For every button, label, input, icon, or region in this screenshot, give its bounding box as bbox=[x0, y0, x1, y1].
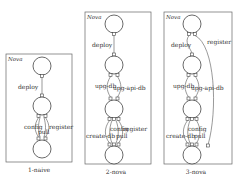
panel-title: Nova bbox=[165, 14, 181, 20]
port bbox=[195, 143, 198, 146]
port bbox=[44, 115, 47, 118]
panel-title: Nova bbox=[86, 14, 102, 20]
node-state bbox=[183, 15, 201, 33]
panel-3-nova: Nova deploy register upg-db upg-api-db c… bbox=[164, 12, 232, 175]
port bbox=[187, 74, 190, 77]
label-pull: pull bbox=[194, 132, 206, 140]
node-state bbox=[33, 57, 51, 75]
port bbox=[186, 118, 189, 121]
caption: 1-naive bbox=[28, 166, 51, 173]
panel-2-nova: Nova deploy upg-db upg-api-db config reg… bbox=[85, 12, 151, 175]
port bbox=[113, 118, 116, 121]
port bbox=[41, 94, 44, 97]
port bbox=[37, 115, 40, 118]
port bbox=[116, 97, 119, 100]
label-deploy: deploy bbox=[18, 83, 39, 91]
label-deploy: deploy bbox=[171, 41, 192, 49]
panel-title: Nova bbox=[7, 56, 23, 62]
label-create-db: create-db bbox=[86, 132, 115, 139]
label-pull: pull bbox=[38, 128, 50, 136]
node-state bbox=[105, 100, 123, 118]
label-register: register bbox=[207, 38, 231, 46]
port bbox=[117, 118, 120, 121]
label-pull: pull bbox=[116, 132, 128, 140]
port bbox=[108, 118, 111, 121]
port bbox=[207, 144, 210, 147]
node-state bbox=[33, 140, 51, 158]
port bbox=[186, 143, 189, 146]
node-state bbox=[33, 97, 51, 115]
port bbox=[41, 75, 44, 78]
port bbox=[37, 137, 40, 140]
port bbox=[116, 74, 119, 77]
port bbox=[191, 53, 194, 56]
port bbox=[194, 97, 197, 100]
label-deploy: deploy bbox=[92, 41, 113, 49]
port bbox=[113, 33, 116, 36]
port bbox=[194, 74, 197, 77]
port bbox=[44, 137, 47, 140]
port bbox=[191, 118, 194, 121]
port bbox=[113, 143, 116, 146]
port bbox=[109, 97, 112, 100]
port bbox=[194, 33, 197, 36]
label-create-db: create-db bbox=[166, 132, 195, 139]
port bbox=[113, 53, 116, 56]
node-state bbox=[183, 56, 201, 74]
label-upg-api-db: upg-api-db bbox=[113, 84, 146, 92]
port bbox=[188, 33, 191, 36]
node-state bbox=[105, 56, 123, 74]
node-state bbox=[183, 100, 201, 118]
caption: 2-nova bbox=[106, 168, 127, 175]
port bbox=[117, 143, 120, 146]
label-upg-api-db: upg-api-db bbox=[191, 84, 224, 92]
port bbox=[191, 143, 194, 146]
port bbox=[108, 143, 111, 146]
node-state bbox=[105, 15, 123, 33]
node-state bbox=[183, 146, 201, 164]
port bbox=[109, 74, 112, 77]
caption: 3-nova bbox=[186, 168, 207, 175]
port bbox=[187, 97, 190, 100]
panel-1-naive: Nova deploy config register pull 1-naive bbox=[6, 54, 73, 173]
label-register: register bbox=[49, 123, 73, 131]
port bbox=[195, 118, 198, 121]
node-state bbox=[105, 146, 123, 164]
